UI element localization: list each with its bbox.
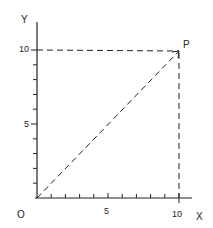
x-tick-label-10: 10 [172,210,182,219]
y-tick-label-10: 10 [19,45,29,54]
dashed-line-diagonal [37,51,179,198]
y-axis-label: Y [21,15,28,25]
x-tick-label-5: 5 [104,207,109,216]
dashed-line-horizontal [37,50,179,51]
point-p-label: P [183,40,190,50]
origin-label: O [17,210,25,220]
y-axis-ticks [31,50,37,183]
y-tick-label-5: 5 [24,120,29,129]
coordinate-diagram [0,0,213,228]
x-axis-label: X [196,212,203,222]
